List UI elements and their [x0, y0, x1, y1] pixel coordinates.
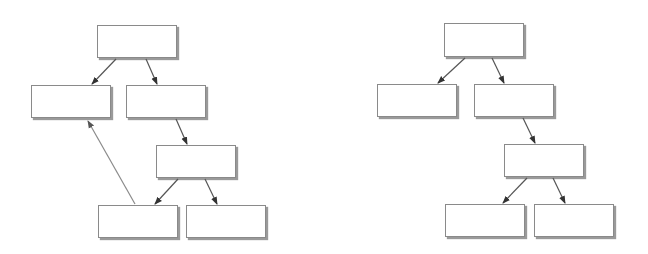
- node-tree-with-back-edge-center: [156, 145, 236, 178]
- node-tree-with-back-edge-right: [126, 85, 206, 118]
- node-tree-right: [474, 84, 554, 117]
- node-tree-with-back-edge-root: [97, 25, 177, 58]
- node-tree-root: [444, 23, 524, 57]
- node-tree-with-back-edge-bottom-left: [98, 205, 178, 238]
- node-tree-with-back-edge-left: [31, 85, 111, 118]
- node-tree-bottom-right: [534, 204, 614, 237]
- node-tree-left: [377, 84, 457, 117]
- node-tree-bottom-left: [445, 204, 525, 237]
- node-tree-with-back-edge-bottom-right: [186, 205, 266, 238]
- node-tree-center: [504, 144, 584, 177]
